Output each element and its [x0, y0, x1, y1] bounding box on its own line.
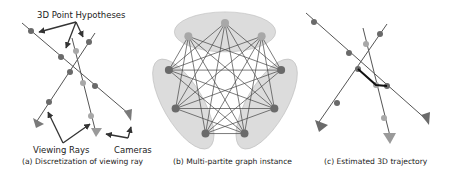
caption-c: (c) Estimated 3D trajectory	[324, 157, 428, 166]
annotation-arrow	[128, 127, 131, 138]
caption-b: (b) Multi-partite graph instance	[173, 157, 292, 166]
hypothesis-point	[67, 69, 73, 75]
figure: 3D Point Hypotheses Viewing Rays Cameras…	[0, 0, 454, 173]
annotation-arrow	[106, 134, 128, 138]
camera-icon	[124, 109, 132, 121]
graph-node	[221, 19, 229, 27]
viewing-ray-1	[306, 13, 428, 121]
viewing-ray-1	[22, 23, 129, 114]
hypothesis-point	[73, 48, 79, 54]
camera-icon	[91, 128, 102, 137]
graph-node	[184, 32, 192, 40]
caption-a: (a) Discretization of viewing ray	[22, 157, 144, 166]
annotation-arrow	[63, 124, 90, 143]
partition-ellipse	[174, 12, 275, 52]
panel-a: 3D Point Hypotheses Viewing Rays Cameras…	[22, 10, 152, 166]
camera-icon	[421, 112, 430, 125]
hypothesis-point	[334, 100, 340, 106]
label-cameras: Cameras	[114, 145, 152, 155]
label-viewing-rays: Viewing Rays	[33, 145, 90, 155]
annotation-arrow	[39, 22, 76, 32]
graph-node	[202, 130, 210, 138]
camera-icon	[315, 120, 328, 132]
hypothesis-point	[363, 41, 369, 47]
graph-node	[172, 105, 180, 113]
annotation-arrow	[66, 22, 76, 48]
annotation-arrow	[48, 112, 63, 143]
viewing-ray-2	[319, 24, 387, 122]
hypothesis-point	[86, 39, 92, 45]
hypothesis-point	[377, 31, 383, 37]
hypothesis-point	[88, 113, 94, 119]
panel-b: (b) Multi-partite graph instance	[141, 12, 310, 166]
hypothesis-point	[346, 50, 352, 56]
hypothesis-point	[92, 83, 98, 89]
hypothesis-point	[381, 115, 387, 121]
hypothesis-point	[28, 28, 34, 34]
hypothesis-point	[58, 54, 64, 60]
graph-node	[258, 32, 266, 40]
graph-node	[270, 105, 278, 113]
graph-node	[240, 130, 248, 138]
partitions	[141, 12, 310, 158]
hypothesis-point	[80, 80, 86, 86]
graph-node	[277, 66, 285, 74]
graph-node	[165, 66, 173, 74]
hypothesis-point	[311, 19, 317, 25]
hypothesis-point	[46, 99, 52, 105]
annotation-arrow	[76, 22, 83, 37]
camera-icon	[383, 133, 396, 144]
panel-c: (c) Estimated 3D trajectory	[306, 13, 430, 166]
label-3d-point-hypotheses: 3D Point Hypotheses	[37, 10, 126, 20]
